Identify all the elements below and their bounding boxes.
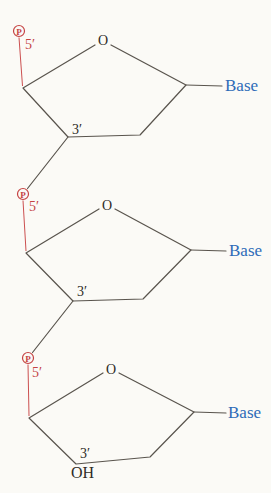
backbone-diagram: P 5′ O 3′ Base P 5′ O 3′ Base P (0, 0, 271, 493)
base-label: Base (228, 403, 261, 422)
five-prime-bond (23, 201, 26, 252)
five-prime-label: 5′ (32, 365, 42, 380)
five-prime-label: 5′ (29, 199, 39, 214)
five-prime-bond (28, 365, 29, 417)
sugar-ring (29, 373, 194, 464)
base-label: Base (225, 76, 258, 95)
sugar-ring (26, 209, 191, 301)
nucleotide-unit-3: P 5′ O 3′ Base OH (23, 353, 262, 482)
sugar-ring (23, 45, 186, 137)
three-prime-label: 3′ (72, 122, 82, 137)
three-prime-label: 3′ (77, 284, 87, 299)
five-prime-label: 5′ (25, 37, 35, 52)
three-prime-label: 3′ (80, 446, 90, 461)
phosphate-label: P (20, 190, 26, 200)
base-label: Base (229, 241, 262, 260)
phosphodiester-bond (33, 301, 74, 353)
base-bond (191, 250, 226, 251)
phosphate-label: P (25, 354, 31, 364)
phosphodiester-bond (28, 137, 69, 189)
backbone-svg: P 5′ O 3′ Base P 5′ O 3′ Base P (0, 0, 271, 493)
base-bond (194, 412, 226, 413)
ring-oxygen-label: O (106, 362, 116, 377)
base-bond (186, 85, 222, 86)
ring-oxygen-label: O (102, 198, 112, 213)
five-prime-bond (19, 38, 23, 87)
nucleotide-unit-1: P 5′ O 3′ Base (14, 26, 259, 189)
phosphate-label: P (16, 27, 22, 37)
ring-oxygen-label: O (98, 33, 108, 48)
nucleotide-unit-2: P 5′ O 3′ Base (18, 189, 263, 353)
hydroxyl-label: OH (71, 464, 95, 481)
